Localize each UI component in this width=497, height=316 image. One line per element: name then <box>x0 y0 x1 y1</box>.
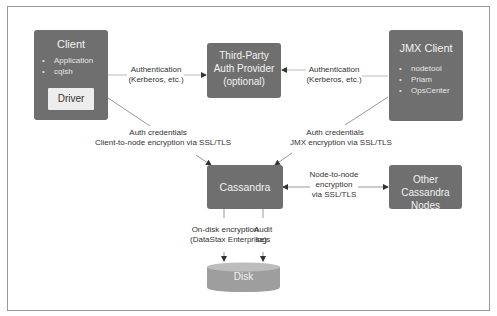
audit-logs-label: Audit logs <box>250 225 276 245</box>
node-node-line2: encryption <box>308 180 360 190</box>
client-node-line1: Auth credentials <box>95 128 221 138</box>
client-node: Client Application cqlsh Driver <box>34 30 108 120</box>
disk-node: Disk <box>207 262 280 292</box>
jmx-item-nodetool: nodetool <box>399 63 463 74</box>
client-node-label: Auth credentials Client-to-node encrypti… <box>95 128 221 148</box>
other-nodes-line2: Nodes <box>389 199 462 212</box>
jmx-node-line1: Auth credentials <box>290 128 380 138</box>
third-party-line1: Third-Party <box>207 49 281 62</box>
third-party-auth-node: Third-Party Auth Provider (optional) <box>207 43 281 98</box>
third-party-line3: (optional) <box>207 75 281 88</box>
client-item-application: Application <box>42 55 108 66</box>
client-title: Client <box>34 38 108 51</box>
disk-label: Disk <box>207 271 280 282</box>
client-auth-line1: Authentication <box>127 65 185 75</box>
client-items: Application cqlsh <box>34 55 108 77</box>
jmx-node-line2: JMX encryption via SSL/TLS <box>290 138 380 148</box>
other-cassandra-nodes: Other Cassandra Nodes <box>389 165 462 209</box>
node-node-line1: Node-to-node <box>308 170 360 180</box>
client-auth-line2: (Kerberos, etc.) <box>127 75 185 85</box>
third-party-line2: Auth Provider <box>207 62 281 75</box>
other-nodes-line1: Other Cassandra <box>389 173 462 199</box>
node-node-line3: via SSL/TLS <box>308 190 360 200</box>
jmx-auth-line1: Authentication <box>305 65 363 75</box>
jmx-node-label: Auth credentials JMX encryption via SSL/… <box>290 128 380 148</box>
jmx-item-opscenter: OpsCenter <box>399 85 463 96</box>
jmx-item-priam: Priam <box>399 74 463 85</box>
audit-line1: Audit <box>250 225 276 235</box>
jmx-auth-label: Authentication (Kerberos, etc.) <box>305 65 363 85</box>
client-auth-label: Authentication (Kerberos, etc.) <box>127 65 185 85</box>
cassandra-node: Cassandra Node <box>207 165 283 209</box>
client-node-line2: Client-to-node encryption via SSL/TLS <box>95 138 221 148</box>
driver-node: Driver <box>48 88 94 110</box>
client-item-cqlsh: cqlsh <box>42 66 108 77</box>
jmx-client-title: JMX Client <box>389 42 463 55</box>
audit-line2: logs <box>250 235 276 245</box>
jmx-client-items: nodetool Priam OpsCenter <box>389 63 463 96</box>
jmx-auth-line2: (Kerberos, etc.) <box>305 75 363 85</box>
jmx-client-node: JMX Client nodetool Priam OpsCenter <box>389 30 463 121</box>
node-to-node-label: Node-to-node encryption via SSL/TLS <box>308 170 360 200</box>
